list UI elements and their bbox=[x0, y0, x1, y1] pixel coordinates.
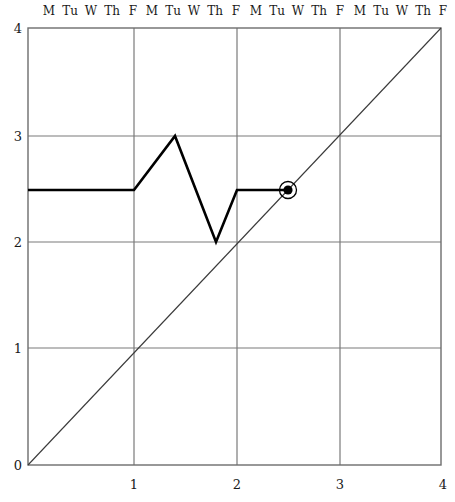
top-axis-tick-4: F bbox=[129, 4, 137, 18]
x-axis-tick-4: 4 bbox=[439, 477, 447, 492]
x-axis-labels: 1 2 3 4 bbox=[130, 477, 447, 492]
top-axis-tick-15: M bbox=[354, 4, 366, 18]
top-axis-tick-17: W bbox=[396, 4, 409, 18]
top-axis-tick-19: F bbox=[439, 4, 447, 18]
top-axis-tick-10: M bbox=[250, 4, 262, 18]
top-axis-tick-14: F bbox=[336, 4, 344, 18]
line-chart: M Tu W Th F M Tu W Th F M Tu W Th F M Tu… bbox=[0, 0, 455, 502]
top-axis-tick-7: W bbox=[188, 4, 201, 18]
reference-diagonal-line bbox=[28, 28, 441, 465]
top-axis-tick-11: Tu bbox=[269, 4, 285, 18]
top-axis-tick-6: Tu bbox=[165, 4, 181, 18]
top-axis-tick-0: M bbox=[43, 4, 55, 18]
marker-dot-icon bbox=[283, 185, 292, 194]
top-axis-tick-18: Th bbox=[415, 4, 431, 18]
top-axis-tick-12: W bbox=[292, 4, 305, 18]
x-axis-tick-3: 3 bbox=[336, 477, 344, 492]
top-axis-labels: M Tu W Th F M Tu W Th F M Tu W Th F M Tu… bbox=[43, 4, 447, 18]
y-axis-tick-1: 1 bbox=[14, 341, 22, 356]
x-axis-tick-1: 1 bbox=[130, 477, 138, 492]
y-axis-tick-3: 3 bbox=[14, 129, 22, 144]
y-axis-labels: 4 3 2 1 0 bbox=[14, 21, 22, 473]
top-axis-tick-13: Th bbox=[311, 4, 327, 18]
top-axis-tick-3: Th bbox=[104, 4, 120, 18]
top-axis-tick-5: M bbox=[146, 4, 158, 18]
y-axis-tick-4: 4 bbox=[14, 21, 22, 36]
y-axis-tick-2: 2 bbox=[14, 235, 22, 250]
top-axis-tick-1: Tu bbox=[62, 4, 78, 18]
top-axis-tick-8: Th bbox=[207, 4, 223, 18]
top-axis-tick-16: Tu bbox=[373, 4, 389, 18]
x-axis-tick-2: 2 bbox=[233, 477, 241, 492]
chart-container: M Tu W Th F M Tu W Th F M Tu W Th F M Tu… bbox=[0, 0, 455, 502]
data-line-path bbox=[28, 136, 288, 242]
top-axis-tick-9: F bbox=[232, 4, 240, 18]
y-axis-tick-0: 0 bbox=[14, 458, 22, 473]
top-axis-tick-2: W bbox=[85, 4, 98, 18]
